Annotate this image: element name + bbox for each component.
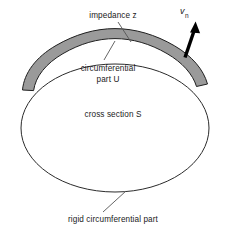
label-impedance: impedance z bbox=[89, 11, 137, 22]
normal-velocity-subscript: n bbox=[185, 12, 189, 19]
label-circumferential-line2: part U bbox=[81, 74, 136, 85]
figure-container: impedance z circumferential part U cross… bbox=[0, 0, 227, 232]
rigid-part-leader-line bbox=[103, 191, 126, 212]
circumferential-leader-line bbox=[104, 41, 115, 60]
normal-velocity-symbol: v bbox=[180, 6, 185, 16]
label-circumferential-part: circumferential part U bbox=[81, 63, 136, 85]
label-normal-velocity: vn bbox=[180, 6, 188, 20]
normal-velocity-arrow bbox=[185, 22, 200, 58]
label-cross-section: cross section S bbox=[84, 110, 141, 121]
label-circumferential-line1: circumferential bbox=[81, 63, 136, 74]
label-rigid-circumferential-part: rigid circumferential part bbox=[68, 215, 158, 226]
